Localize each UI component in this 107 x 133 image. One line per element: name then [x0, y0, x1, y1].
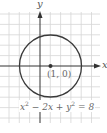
center-point-label: (1, 0): [47, 69, 71, 79]
x-axis-arrow-icon: [94, 64, 101, 69]
y-axis-label: y: [37, 0, 43, 9]
y-axis-arrow-icon: [38, 11, 43, 18]
coordinate-plane: [0, 0, 107, 133]
center-point: [49, 64, 53, 68]
equation-label: x2 − 2x + y2 = 8: [19, 100, 95, 112]
x-axis-label: x: [102, 59, 107, 70]
